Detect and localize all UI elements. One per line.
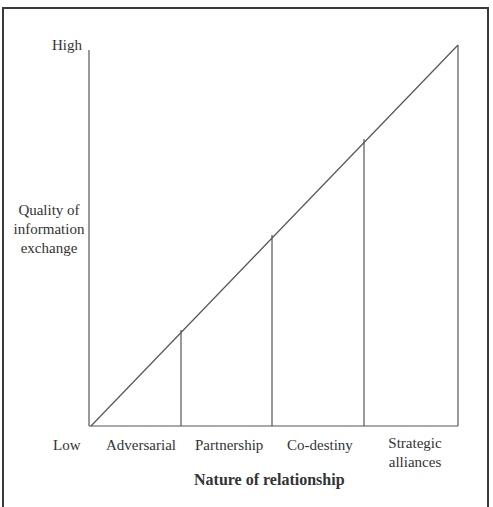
x-category-partnership: Partnership bbox=[195, 436, 263, 455]
y-tick-high: High bbox=[52, 36, 82, 55]
y-axis-title: Quality of information exchange bbox=[10, 201, 88, 258]
x-category-codestiny: Co-destiny bbox=[287, 436, 353, 455]
y-tick-low: Low bbox=[53, 436, 81, 455]
y-title-line1: Quality of bbox=[10, 201, 88, 220]
x-cat4-line1: Strategic bbox=[380, 434, 450, 453]
trend-line bbox=[91, 45, 458, 426]
x-axis-title: Nature of relationship bbox=[194, 471, 345, 489]
y-title-line3: exchange bbox=[10, 239, 88, 258]
y-title-line2: information bbox=[10, 220, 88, 239]
x-category-strategic-alliances: Strategic alliances bbox=[380, 434, 450, 472]
x-category-adversarial: Adversarial bbox=[106, 436, 176, 455]
x-cat4-line2: alliances bbox=[380, 453, 450, 472]
